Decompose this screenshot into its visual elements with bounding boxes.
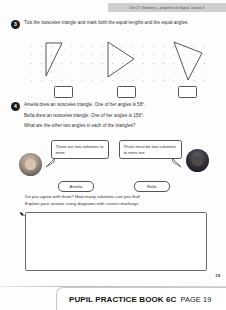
footer-tab: PUPIL PRACTICE BOOK 6C PAGE 19	[56, 287, 226, 310]
tick-box-triangle-1[interactable]	[54, 86, 73, 98]
footer-page-label: PAGE 19	[180, 295, 211, 304]
avatar-amelia	[19, 153, 42, 176]
question-4: 4 Amelia drew an isosceles triangle. One…	[11, 101, 145, 129]
avatar-amelia-face	[25, 159, 36, 171]
page-number: 19	[215, 273, 220, 278]
speech-bubble-tail-amelia	[45, 158, 55, 168]
name-label-bella: Bella	[134, 181, 170, 192]
final-prompt-line-1: Do you agree with them? How many solutio…	[25, 193, 215, 200]
dot-grid-area	[24, 39, 214, 83]
question-3-text: Tick the isosceles triangle and mark bot…	[24, 19, 189, 29]
speech-bubble-tail-bella	[172, 158, 182, 168]
question-4-line-3: What are the other two angles in each of…	[24, 122, 145, 129]
question-3-number: 3	[11, 20, 20, 29]
question-4-number: 4	[11, 102, 20, 111]
page-footer: PUPIL PRACTICE BOOK 6C PAGE 19	[0, 284, 226, 310]
tick-box-row	[24, 86, 214, 97]
question-4-text: Amelia drew an isosceles triangle. One o…	[24, 101, 145, 129]
triangle-isosceles-pointing-right	[108, 42, 134, 77]
final-prompt-line-2: Explain your answer using diagrams with …	[25, 200, 215, 207]
tick-box-triangle-2[interactable]	[117, 86, 136, 98]
characters-row: There are two solutions to mine. There m…	[0, 139, 226, 191]
triangles-group	[24, 39, 214, 83]
final-prompt: Do you agree with them? How many solutio…	[25, 193, 215, 207]
speech-bubble-amelia: There are two solutions to mine.	[51, 140, 109, 159]
triangle-right-scalene	[46, 43, 62, 76]
footer-book-title: PUPIL PRACTICE BOOK 6C	[69, 295, 176, 304]
worksheet-page: Unit 17: Geometry – properties of shapes…	[0, 0, 226, 310]
answer-box[interactable]	[25, 212, 207, 271]
question-4-line-1: Amelia drew an isosceles triangle. One o…	[24, 101, 145, 108]
avatar-bella	[186, 149, 209, 172]
question-4-line-2: Bella drew an isosceles triangle. One of…	[24, 112, 145, 119]
unit-lesson-banner: Unit 17: Geometry – properties of shapes…	[108, 3, 226, 12]
triangle-scalene-pointing-down	[174, 42, 202, 80]
avatar-bella-face	[192, 155, 203, 167]
tick-box-triangle-3[interactable]	[178, 86, 197, 98]
name-label-amelia: Amelia	[58, 181, 94, 192]
unit-lesson-text: Unit 17: Geometry – properties of shapes…	[130, 6, 205, 10]
speech-bubble-bella: There must be two solutions to mine too.	[119, 140, 182, 159]
question-3: 3 Tick the isosceles triangle and mark b…	[11, 19, 189, 29]
